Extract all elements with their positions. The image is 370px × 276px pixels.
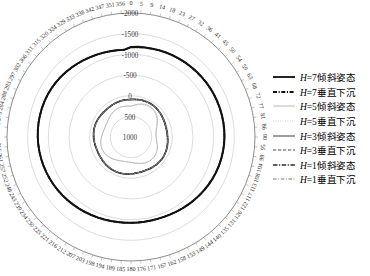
angular-tick-mark [34, 218, 36, 220]
angular-tick-mark [225, 218, 227, 220]
angular-tick-label: 27 [188, 14, 196, 22]
angular-tick-label: 333 [65, 13, 76, 22]
angular-tick-label: 32 [197, 19, 205, 27]
angular-tick-mark [92, 16, 93, 19]
angular-tick-mark [28, 62, 30, 64]
angular-tick-label: 72 [254, 92, 262, 100]
legend-label: H=7倾斜姿态 [300, 70, 356, 84]
legend-item[interactable]: H=5垂直下沉 [272, 114, 370, 129]
angular-tick-label: 81 [260, 113, 267, 120]
angular-tick-label: 158 [176, 255, 187, 264]
angular-tick-mark [18, 79, 21, 80]
angular-tick-mark [204, 237, 206, 239]
angular-tick-mark [10, 98, 13, 99]
angular-tick-mark [219, 225, 221, 227]
radial-tick-label: -1500 [122, 31, 139, 39]
angular-tick-label: 113 [249, 182, 258, 193]
angular-tick-mark [41, 225, 43, 227]
legend-label: H=5倾斜姿态 [300, 99, 356, 113]
angular-tick-mark [41, 47, 43, 49]
angular-tick-mark [249, 175, 252, 176]
angular-tick-mark [204, 34, 206, 36]
angular-tick-mark [82, 252, 83, 255]
angular-tick-mark [73, 24, 74, 27]
angular-tick-label: 54 [235, 54, 243, 62]
angular-tick-mark [178, 252, 179, 255]
angular-tick-mark [10, 175, 13, 176]
angular-tick-mark [56, 237, 58, 239]
legend-label: H=3垂直下沉 [300, 143, 356, 157]
angular-tick-label: 50 [228, 46, 237, 55]
angular-tick-mark [34, 55, 36, 57]
angular-tick-label: 279 [0, 111, 3, 121]
radial-tick-label: 500 [125, 114, 136, 122]
angular-tick-mark [18, 193, 21, 194]
legend-line-swatch [272, 101, 296, 111]
angular-tick-label: 117 [244, 192, 253, 203]
legend-item[interactable]: H=7垂直下沉 [272, 85, 370, 100]
angular-tick-label: 18 [168, 6, 176, 14]
angular-tick-label: 77 [257, 102, 264, 109]
angular-tick-label: 59 [241, 63, 249, 71]
angular-tick-label: 9 [150, 2, 154, 8]
angular-tick-mark [241, 79, 244, 80]
legend-label: H=1倾斜姿态 [300, 158, 356, 172]
legend-item[interactable]: H=5倾斜姿态 [272, 99, 370, 114]
angular-tick-mark [101, 14, 102, 17]
angular-tick-mark [160, 258, 161, 261]
angular-tick-mark [252, 166, 255, 167]
angular-tick-mark [14, 184, 17, 185]
radial-tick-label: 1000 [123, 134, 138, 142]
legend-item[interactable]: H=7倾斜姿态 [272, 70, 370, 85]
angular-tick-mark [237, 202, 240, 204]
figure-caption [0, 268, 370, 276]
angular-tick-mark [187, 247, 188, 250]
angular-tick-label: 203 [75, 255, 86, 264]
legend-item[interactable]: H=3垂直下沉 [272, 143, 370, 158]
angular-tick-label: 36 [205, 25, 213, 33]
angular-tick-label: 99 [258, 154, 265, 161]
legend-line-swatch [272, 72, 296, 82]
angular-tick-mark [196, 243, 198, 246]
legend-label: H=1垂直下沉 [300, 172, 356, 186]
angular-tick-label: 86 [261, 123, 267, 130]
angular-tick-label: 68 [250, 82, 258, 90]
angular-tick-mark [56, 34, 58, 36]
angular-tick-label: 257 [0, 163, 6, 173]
angular-tick-mark [212, 231, 214, 233]
angular-tick-mark [231, 62, 233, 64]
polar-chart-figure: -2000-1500-1000-500050010000591418232732… [0, 0, 370, 276]
legend-label: H=5垂直下沉 [300, 114, 356, 128]
angular-tick-label: 23 [178, 10, 186, 18]
angular-tick-label: 207 [65, 250, 76, 259]
legend-line-swatch [272, 116, 296, 126]
angular-tick-label: 248 [4, 182, 13, 193]
angular-tick-label: 275 [0, 122, 1, 132]
legend-item[interactable]: H=1倾斜姿态 [272, 158, 370, 173]
angular-tick-mark [249, 98, 252, 99]
legend-line-swatch [272, 145, 296, 155]
angular-tick-mark [160, 14, 161, 17]
angular-tick-label: 356 [116, 0, 126, 7]
angular-tick-label: 95 [260, 144, 266, 151]
angular-tick-mark [187, 24, 188, 27]
chart-legend: H=7倾斜姿态H=7垂直下沉H=5倾斜姿态H=5垂直下沉H=3倾斜姿态H=3垂直… [272, 70, 370, 187]
angular-tick-label: 63 [246, 72, 254, 80]
angular-tick-mark [49, 40, 51, 42]
angular-tick-label: 338 [75, 9, 86, 18]
angular-tick-label: 104 [256, 163, 264, 173]
angular-tick-mark [196, 29, 198, 32]
angular-tick-label: 90 [262, 134, 268, 140]
angular-tick-label: 41 [213, 31, 222, 40]
angular-tick-mark [23, 71, 26, 73]
legend-line-swatch [272, 131, 296, 141]
angular-tick-mark [246, 88, 249, 89]
radial-tick-label: -500 [123, 72, 137, 80]
angular-tick-label: 252 [1, 173, 10, 184]
angular-tick-label: 108 [253, 173, 262, 184]
angular-tick-label: 45 [221, 38, 230, 47]
angular-tick-mark [237, 71, 240, 73]
legend-item[interactable]: H=3倾斜姿态 [272, 128, 370, 143]
legend-item[interactable]: H=1垂直下沉 [272, 172, 370, 187]
legend-line-swatch [272, 160, 296, 170]
